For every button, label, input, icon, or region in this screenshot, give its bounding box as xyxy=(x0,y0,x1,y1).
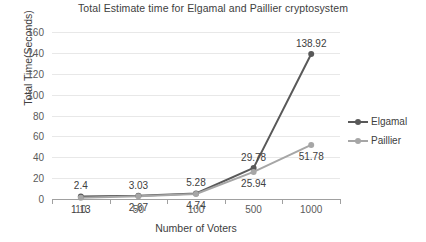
x-tick-label: 1000 xyxy=(281,204,341,215)
x-tick-label: 10 xyxy=(51,204,111,215)
y-tick-label: 100 xyxy=(4,89,44,100)
legend-label: Paillier xyxy=(371,135,401,146)
y-axis-tick-labels: 020406080100120140160 xyxy=(0,32,48,199)
series-line-paillier xyxy=(81,145,311,198)
series-lines xyxy=(52,32,340,199)
data-point xyxy=(308,51,314,57)
data-label: 51.78 xyxy=(299,150,324,161)
chart-container: Total Estimate time for Elgamal and Pail… xyxy=(0,0,426,242)
data-label: 5.28 xyxy=(186,177,205,188)
legend-item-paillier[interactable]: Paillier xyxy=(348,131,424,150)
x-tick-label: 100 xyxy=(166,204,226,215)
data-label: 2.4 xyxy=(74,180,88,191)
data-label: 29.78 xyxy=(241,151,266,162)
data-point xyxy=(193,191,199,197)
series-line-elgamal xyxy=(81,54,311,196)
chart-legend: ElgamalPaillier xyxy=(348,112,424,150)
data-label: 25.94 xyxy=(241,177,266,188)
legend-item-elgamal[interactable]: Elgamal xyxy=(348,112,424,131)
y-tick-label: 80 xyxy=(4,110,44,121)
y-tick-label: 140 xyxy=(4,47,44,58)
y-tick-label: 40 xyxy=(4,152,44,163)
data-label: 138.92 xyxy=(296,38,327,49)
y-tick-label: 20 xyxy=(4,173,44,184)
data-label: 3.03 xyxy=(129,179,148,190)
y-tick-label: 0 xyxy=(4,194,44,205)
y-tick-label: 120 xyxy=(4,68,44,79)
x-axis-title: Number of Voters xyxy=(52,222,340,234)
chart-title: Total Estimate time for Elgamal and Pail… xyxy=(0,2,426,14)
data-point xyxy=(251,169,257,175)
legend-marker-icon xyxy=(348,136,368,145)
data-point xyxy=(308,142,314,148)
legend-label: Elgamal xyxy=(371,116,407,127)
legend-marker-icon xyxy=(348,117,368,126)
x-axis-line xyxy=(52,199,341,200)
plot-area: 2.43.035.2829.78138.921.132.674.7425.945… xyxy=(52,32,340,199)
x-tick-label: 50 xyxy=(108,204,168,215)
x-tick-label: 500 xyxy=(224,204,284,215)
y-tick-label: 160 xyxy=(4,27,44,38)
y-tick-label: 60 xyxy=(4,131,44,142)
